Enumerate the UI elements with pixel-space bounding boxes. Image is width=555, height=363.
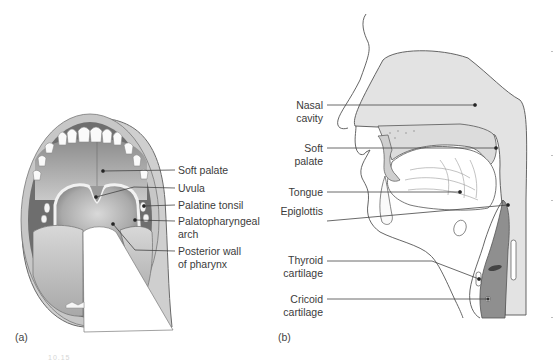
- label-thyroid-cartilage: Thyroid cartilage: [270, 254, 323, 280]
- label-uvula: Uvula: [178, 182, 205, 195]
- label-palatopharyngeal-arch: Palatopharyngeal arch: [178, 215, 260, 241]
- label-tongue: Tongue: [270, 186, 323, 199]
- label-palatine-tonsil: Palatine tonsil: [178, 199, 243, 212]
- label-soft-palate-b: Soft palate: [270, 142, 323, 168]
- label-cricoid-cartilage: Cricoid cartilage: [270, 293, 323, 319]
- tongue-left: [33, 225, 83, 316]
- edge-tick: [551, 317, 553, 318]
- caption-fragment: 10.15: [48, 354, 71, 361]
- label-nasal-cavity: Nasal cavity: [270, 99, 323, 125]
- panel-a-tag: (a): [15, 331, 28, 343]
- label-soft-palate-a: Soft palate: [178, 164, 228, 177]
- sagittal-section-illustration: [338, 14, 527, 318]
- edge-tick: [551, 155, 553, 156]
- panel-b-tag: (b): [278, 331, 291, 343]
- trachea: [480, 200, 509, 318]
- label-posterior-wall-of-pharynx: Posterior wall of pharynx: [178, 245, 241, 271]
- edge-tick: [551, 200, 553, 201]
- edge-tick: [551, 51, 553, 52]
- label-epiglottis: Epiglottis: [270, 205, 323, 218]
